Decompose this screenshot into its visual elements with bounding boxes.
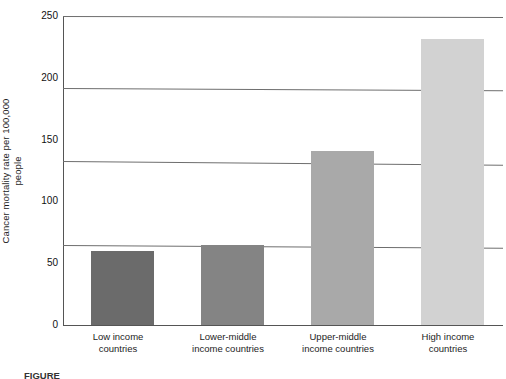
caption-prefix: FIGURE <box>24 370 60 379</box>
x-tick-label: Upper-middle income countries <box>283 331 393 354</box>
bar <box>91 251 154 325</box>
bar <box>421 39 484 325</box>
x-axis-ticks: Low income countriesLower-middle income … <box>63 331 503 361</box>
x-axis-line <box>63 325 503 326</box>
figure-caption: FIGURE <box>24 370 494 379</box>
figure-container: Cancer mortality rate per 100,000 people… <box>0 0 506 379</box>
bar <box>311 151 374 325</box>
y-tick-label: 200 <box>28 73 58 83</box>
y-tick-label: 150 <box>28 135 58 145</box>
y-tick-label: 100 <box>28 196 58 206</box>
x-tick-label: Lower-middle income countries <box>173 331 283 354</box>
y-tick-label: 0 <box>28 320 58 330</box>
y-tick-label: 250 <box>28 11 58 21</box>
y-axis-title: Cancer mortality rate per 100,000 people <box>0 96 18 246</box>
bar <box>201 245 264 325</box>
bar-series <box>63 16 503 325</box>
x-tick-label: Low income countries <box>63 331 173 354</box>
x-tick-label: High income countries <box>393 331 503 354</box>
y-tick-label: 50 <box>28 258 58 268</box>
